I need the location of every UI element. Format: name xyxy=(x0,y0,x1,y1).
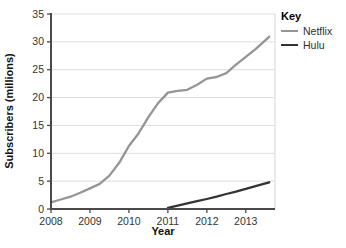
y-tick-label-30: 30 xyxy=(32,35,44,47)
chart-figure: 05101520253035200820092010201120122013 S… xyxy=(0,0,346,248)
x-tick-label-2013: 2013 xyxy=(234,215,258,227)
x-tick-label-2010: 2010 xyxy=(117,215,141,227)
y-tick-label-20: 20 xyxy=(32,91,44,103)
y-tick-label-15: 15 xyxy=(32,119,44,131)
x-axis-title: Year xyxy=(151,225,174,237)
x-tick-label-2008: 2008 xyxy=(39,215,63,227)
x-tick-label-2009: 2009 xyxy=(78,215,102,227)
series-line-hulu xyxy=(168,182,269,208)
legend-title: Key xyxy=(281,10,332,22)
y-tick-label-35: 35 xyxy=(32,8,44,20)
y-tick-label-5: 5 xyxy=(38,175,44,187)
legend-label-netflix: Netflix xyxy=(303,25,332,37)
legend: Key Netflix Hulu xyxy=(281,10,332,52)
y-tick-label-10: 10 xyxy=(32,147,44,159)
y-tick-label-0: 0 xyxy=(38,203,44,215)
hulu-line-swatch xyxy=(281,44,298,46)
legend-item-hulu: Hulu xyxy=(281,38,332,52)
legend-label-hulu: Hulu xyxy=(303,39,325,51)
legend-item-netflix: Netflix xyxy=(281,24,332,38)
series-line-netflix xyxy=(51,37,269,203)
y-tick-label-25: 25 xyxy=(32,63,44,75)
x-tick-label-2012: 2012 xyxy=(195,215,219,227)
y-axis-title: Subscribers (millions) xyxy=(3,53,15,169)
netflix-line-swatch xyxy=(281,30,298,32)
